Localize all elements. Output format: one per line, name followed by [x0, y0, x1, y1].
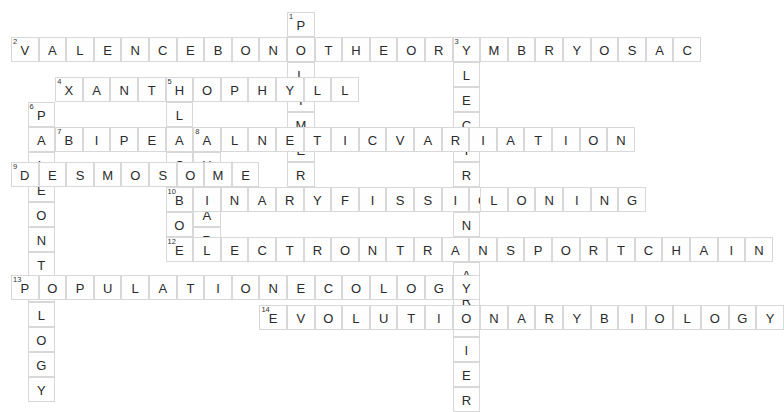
crossword-cell[interactable]: E: [453, 87, 481, 112]
crossword-cell[interactable]: P: [66, 275, 94, 300]
crossword-cell[interactable]: Y: [276, 77, 304, 102]
crossword-cell[interactable]: O: [166, 212, 194, 237]
crossword-cell[interactable]: A: [39, 37, 67, 62]
crossword-cell[interactable]: C: [673, 37, 701, 62]
crossword-cell[interactable]: B: [204, 37, 232, 62]
crossword-cell[interactable]: M: [480, 37, 508, 62]
crossword-cell[interactable]: O: [508, 187, 536, 212]
crossword-cell[interactable]: 13P: [11, 275, 39, 300]
crossword-cell[interactable]: R: [535, 37, 563, 62]
crossword-cell[interactable]: O: [580, 127, 608, 152]
crossword-cell[interactable]: N: [480, 305, 508, 330]
crossword-cell[interactable]: L: [193, 237, 221, 262]
crossword-cell[interactable]: R: [425, 37, 453, 62]
crossword-cell[interactable]: T: [607, 237, 635, 262]
crossword-cell[interactable]: I: [618, 305, 646, 330]
crossword-cell[interactable]: C: [149, 37, 177, 62]
crossword-cell[interactable]: E: [138, 127, 166, 152]
crossword-cell[interactable]: 6P: [28, 102, 56, 127]
crossword-cell[interactable]: G: [425, 275, 453, 300]
crossword-cell[interactable]: 12E: [166, 237, 194, 262]
crossword-cell[interactable]: E: [232, 162, 260, 187]
crossword-cell[interactable]: R: [276, 187, 304, 212]
crossword-cell[interactable]: C: [315, 275, 343, 300]
crossword-cell[interactable]: O: [287, 37, 315, 62]
crossword-cell[interactable]: A: [414, 127, 442, 152]
crossword-cell[interactable]: T: [315, 37, 343, 62]
crossword-cell[interactable]: S: [386, 187, 414, 212]
crossword-cell[interactable]: O: [177, 162, 205, 187]
crossword-cell[interactable]: R: [287, 162, 315, 187]
crossword-cell[interactable]: 8A: [193, 127, 221, 152]
crossword-cell[interactable]: L: [673, 305, 701, 330]
crossword-cell[interactable]: I: [552, 127, 580, 152]
crossword-cell[interactable]: O: [701, 305, 729, 330]
crossword-cell[interactable]: T: [276, 237, 304, 262]
crossword-cell[interactable]: Y: [756, 305, 784, 330]
crossword-cell[interactable]: H: [342, 37, 370, 62]
crossword-cell[interactable]: R: [453, 387, 481, 412]
crossword-cell[interactable]: T: [28, 252, 56, 277]
crossword-cell[interactable]: I: [193, 187, 221, 212]
crossword-cell[interactable]: O: [591, 37, 619, 62]
crossword-cell[interactable]: O: [39, 275, 67, 300]
crossword-cell[interactable]: I: [469, 127, 497, 152]
crossword-cell[interactable]: L: [453, 62, 481, 87]
crossword-cell[interactable]: P: [524, 237, 552, 262]
crossword-cell[interactable]: L: [342, 305, 370, 330]
crossword-cell[interactable]: H: [662, 237, 690, 262]
crossword-cell[interactable]: E: [39, 162, 67, 187]
crossword-cell[interactable]: N: [453, 212, 481, 237]
crossword-cell[interactable]: 1P: [287, 12, 315, 37]
crossword-cell[interactable]: O: [397, 275, 425, 300]
crossword-cell[interactable]: I: [718, 237, 746, 262]
crossword-cell[interactable]: R: [442, 127, 470, 152]
crossword-cell[interactable]: N: [535, 187, 563, 212]
crossword-cell[interactable]: S: [66, 162, 94, 187]
crossword-cell[interactable]: Y: [304, 187, 332, 212]
crossword-cell[interactable]: I: [204, 275, 232, 300]
crossword-cell[interactable]: E: [276, 127, 304, 152]
crossword-cell[interactable]: H: [248, 77, 276, 102]
crossword-cell[interactable]: O: [552, 237, 580, 262]
crossword-cell[interactable]: O: [28, 327, 56, 352]
crossword-cell[interactable]: 14E: [259, 305, 287, 330]
crossword-cell[interactable]: N: [259, 37, 287, 62]
crossword-cell[interactable]: G: [618, 187, 646, 212]
crossword-cell[interactable]: E: [94, 37, 122, 62]
crossword-cell[interactable]: S: [414, 187, 442, 212]
crossword-cell[interactable]: N: [359, 237, 387, 262]
crossword-cell[interactable]: N: [221, 187, 249, 212]
crossword-cell[interactable]: U: [370, 305, 398, 330]
crossword-cell[interactable]: S: [149, 162, 177, 187]
crossword-cell[interactable]: P: [110, 127, 138, 152]
crossword-cell[interactable]: B: [508, 37, 536, 62]
crossword-cell[interactable]: A: [28, 127, 56, 152]
crossword-cell[interactable]: E: [221, 237, 249, 262]
crossword-cell[interactable]: T: [177, 275, 205, 300]
crossword-cell[interactable]: L: [166, 102, 194, 127]
crossword-cell[interactable]: G: [729, 305, 757, 330]
crossword-cell[interactable]: I: [359, 187, 387, 212]
crossword-cell[interactable]: U: [94, 275, 122, 300]
crossword-cell[interactable]: N: [110, 77, 138, 102]
crossword-cell[interactable]: G: [28, 352, 56, 377]
crossword-cell[interactable]: R: [535, 305, 563, 330]
crossword-cell[interactable]: T: [524, 127, 552, 152]
crossword-cell[interactable]: R: [453, 162, 481, 187]
crossword-cell[interactable]: I: [425, 305, 453, 330]
crossword-cell[interactable]: L: [331, 77, 359, 102]
crossword-cell[interactable]: A: [83, 77, 111, 102]
crossword-cell[interactable]: L: [370, 275, 398, 300]
crossword-cell[interactable]: 7B: [55, 127, 83, 152]
crossword-cell[interactable]: N: [28, 227, 56, 252]
crossword-cell[interactable]: Y: [453, 275, 481, 300]
crossword-cell[interactable]: 3Y: [453, 37, 481, 62]
crossword-cell[interactable]: A: [248, 187, 276, 212]
crossword-cell[interactable]: A: [149, 275, 177, 300]
crossword-cell[interactable]: S: [618, 37, 646, 62]
crossword-cell[interactable]: A: [497, 127, 525, 152]
crossword-cell[interactable]: N: [745, 237, 773, 262]
crossword-cell[interactable]: A: [442, 237, 470, 262]
crossword-cell[interactable]: O: [315, 305, 343, 330]
